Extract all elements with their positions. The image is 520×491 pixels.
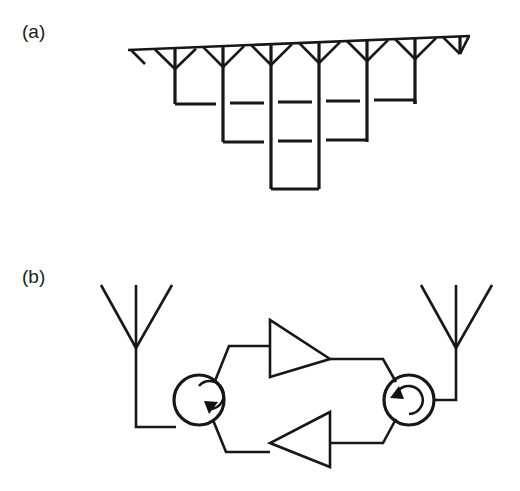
- figure-background: [0, 0, 520, 491]
- panel-a-label: (a): [22, 21, 45, 42]
- technical-diagram-svg: (a): [0, 0, 520, 491]
- figure-root: (a): [0, 0, 520, 491]
- panel-b-label: (b): [22, 266, 45, 287]
